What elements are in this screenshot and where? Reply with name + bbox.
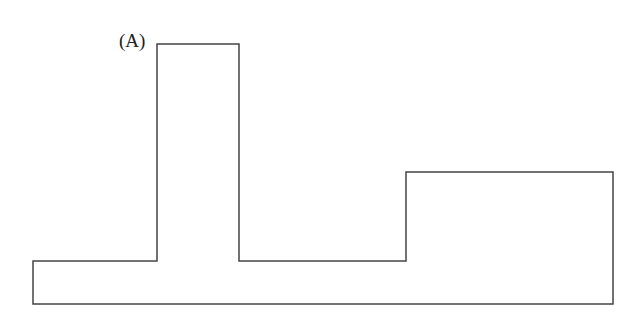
shape-outline xyxy=(33,44,613,304)
outline-diagram xyxy=(0,0,643,314)
label-a: (A) xyxy=(119,30,145,52)
